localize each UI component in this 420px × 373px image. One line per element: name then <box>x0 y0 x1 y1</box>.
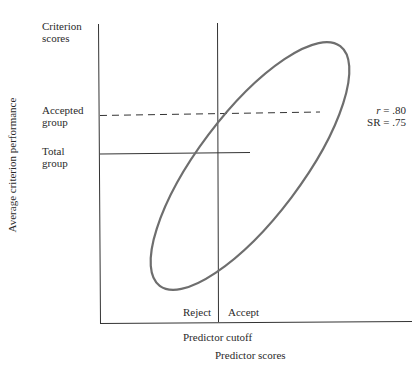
accept-label: Accept <box>228 306 259 318</box>
predictor-cutoff-line <box>218 23 219 322</box>
criterion-scores-label: Criterion scores <box>42 20 82 44</box>
accepted-group-line1: Accepted <box>42 104 84 116</box>
x-axis <box>100 322 412 324</box>
y-axis <box>99 24 101 324</box>
predictor-cutoff-label: Predictor cutoff <box>183 331 252 343</box>
accepted-group-label: Accepted group <box>42 104 84 128</box>
average-criterion-performance-label: Average criterion performance <box>6 98 18 233</box>
reject-label: Reject <box>183 306 211 318</box>
total-group-line1: Total <box>42 145 68 157</box>
total-group-line2: group <box>42 157 68 169</box>
total-group-mean-line <box>100 153 250 155</box>
accepted-group-line2: group <box>42 116 84 128</box>
r-value: = .80 <box>381 104 406 116</box>
criterion-scores-line2: scores <box>42 32 82 44</box>
accepted-group-mean-line <box>100 112 320 116</box>
stats-annotation: r = .80 SR = .75 <box>358 104 406 128</box>
r-stat: r = .80 <box>358 104 406 116</box>
predictor-scores-label: Predictor scores <box>215 349 286 361</box>
criterion-scores-line1: Criterion <box>42 20 82 32</box>
correlation-ellipse <box>118 15 382 317</box>
total-group-label: Total group <box>42 145 68 169</box>
sr-stat: SR = .75 <box>358 116 406 128</box>
